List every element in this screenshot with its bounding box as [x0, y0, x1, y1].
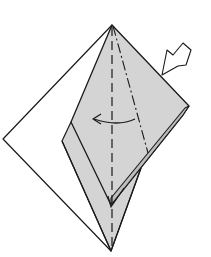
origami-diagram [0, 0, 211, 257]
diagram-svg [0, 0, 211, 257]
push-arrow-icon [162, 43, 191, 75]
